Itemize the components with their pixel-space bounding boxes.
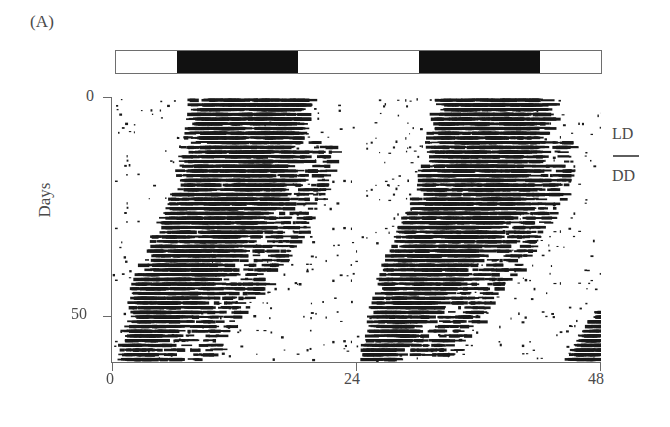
ld-bar-segment-dark-1 <box>177 51 298 73</box>
ld-bar-segment-light-0 <box>116 51 177 73</box>
y-tick-50 <box>103 316 112 317</box>
ld-bar-segment-light-2 <box>298 51 419 73</box>
x-axis-line <box>111 362 601 363</box>
light-dark-bar <box>115 50 602 74</box>
legend-divider-rule <box>613 155 639 157</box>
actogram-canvas <box>112 98 601 362</box>
x-tick-label-48: 48 <box>588 370 604 388</box>
x-tick-label-0: 0 <box>106 370 114 388</box>
lighting-condition-legend: LD DD <box>612 126 668 184</box>
panel-label: (A) <box>30 12 54 32</box>
legend-label-ld: LD <box>612 126 668 142</box>
ld-bar-segment-dark-3 <box>419 51 540 73</box>
actogram-plot-area <box>112 98 601 362</box>
y-axis-title: Days <box>35 150 55 250</box>
x-tick-label-24: 24 <box>344 370 360 388</box>
ld-bar-segment-light-4 <box>540 51 601 73</box>
y-tick-label-0: 0 <box>86 87 94 105</box>
y-tick-label-50: 50 <box>71 305 87 323</box>
legend-label-dd: DD <box>612 168 668 184</box>
figure-panel-a: (A) 0 50 0 24 48 Days LD DD <box>0 0 670 427</box>
y-tick-0 <box>103 97 112 98</box>
